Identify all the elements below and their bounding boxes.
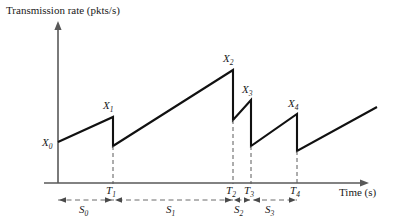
span-arrow-end-s2 bbox=[244, 197, 250, 202]
time-label-t1: T1 bbox=[106, 184, 116, 199]
point-label-x2: X2 bbox=[222, 52, 234, 67]
point-label-x3-sub: 3 bbox=[248, 89, 253, 98]
time-label-t3: T3 bbox=[244, 184, 254, 199]
span-label-s0-sub: 0 bbox=[85, 209, 89, 218]
span-label-s2: S2 bbox=[234, 203, 244, 218]
span-arrow-end-s1 bbox=[225, 197, 232, 202]
point-label-x1: X1 bbox=[102, 99, 113, 114]
point-label-x4: X4 bbox=[287, 97, 299, 112]
x-axis-title: Time (s) bbox=[339, 186, 377, 199]
span-label-s3: S3 bbox=[265, 203, 275, 218]
span-label-s1-sub: 1 bbox=[172, 209, 176, 218]
time-label-t4: T4 bbox=[290, 184, 300, 199]
y-axis-arrowhead bbox=[54, 21, 61, 30]
figure-canvas: Transmission rate (pkts/s) Time (s) X0 X… bbox=[0, 0, 400, 224]
transmission-rate-figure: Transmission rate (pkts/s) Time (s) X0 X… bbox=[0, 0, 400, 224]
y-axis-title: Transmission rate (pkts/s) bbox=[6, 4, 120, 17]
time-label-t3-sub: 3 bbox=[249, 190, 254, 199]
span-arrow-end-s3 bbox=[289, 197, 296, 202]
span-label-s0: S0 bbox=[79, 203, 89, 218]
point-label-x2-sub: 2 bbox=[230, 58, 234, 67]
span-arrow-start-s0 bbox=[59, 197, 66, 202]
span-arrow-start-s3 bbox=[253, 197, 260, 202]
point-label-x4-sub: 4 bbox=[295, 103, 299, 112]
time-label-t4-sub: 4 bbox=[296, 190, 300, 199]
span-arrow-start-s1 bbox=[115, 197, 122, 202]
point-label-x1-sub: 1 bbox=[110, 105, 114, 114]
span-label-s3-sub: 3 bbox=[270, 209, 275, 218]
span-label-s1: S1 bbox=[166, 203, 175, 218]
span-arrow-end-s0 bbox=[105, 197, 112, 202]
span-label-s2-sub: 2 bbox=[240, 209, 244, 218]
point-label-x0-sub: 0 bbox=[49, 142, 53, 151]
time-label-t1-sub: 1 bbox=[112, 190, 116, 199]
point-label-x3: X3 bbox=[241, 83, 253, 98]
time-label-t2: T2 bbox=[226, 184, 236, 199]
time-label-t2-sub: 2 bbox=[232, 190, 236, 199]
point-label-x0: X0 bbox=[41, 136, 53, 151]
